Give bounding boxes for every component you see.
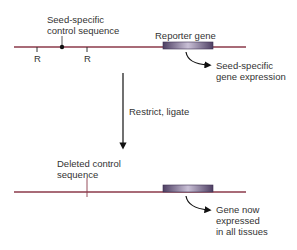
deleted-line2: sequence bbox=[57, 169, 121, 180]
seed-specific-expression-label: Seed-specific gene expression bbox=[216, 60, 286, 82]
expressed-line: expressed bbox=[216, 215, 268, 226]
all-tissues-line: in all tissues bbox=[216, 226, 268, 237]
reporter-gene-box-bottom bbox=[163, 185, 213, 192]
restrict-ligate-label: Restrict, ligate bbox=[129, 106, 189, 117]
restriction-site-label-1: R bbox=[34, 53, 41, 64]
control-sequence-dot bbox=[60, 45, 64, 49]
restriction-site-label-2: R bbox=[84, 53, 91, 64]
gene-now-line: Gene now bbox=[216, 204, 268, 215]
modified-construct bbox=[14, 178, 246, 210]
control-label-line1: Seed-specific bbox=[47, 14, 119, 25]
control-label-line2: control sequence bbox=[47, 25, 119, 36]
reporter-gene-label: Reporter gene bbox=[155, 30, 216, 41]
expression-arrow-top bbox=[186, 52, 208, 65]
expression-line2: gene expression bbox=[216, 71, 286, 82]
control-sequence-label: Seed-specific control sequence bbox=[47, 14, 119, 36]
expression-arrow-bottom bbox=[186, 196, 208, 210]
reporter-gene-box bbox=[163, 42, 213, 49]
all-tissues-expression-label: Gene now expressed in all tissues bbox=[216, 204, 268, 237]
deleted-line1: Deleted control bbox=[57, 158, 121, 169]
deleted-control-sequence-label: Deleted control sequence bbox=[57, 158, 121, 180]
expression-line1: Seed-specific bbox=[216, 60, 286, 71]
